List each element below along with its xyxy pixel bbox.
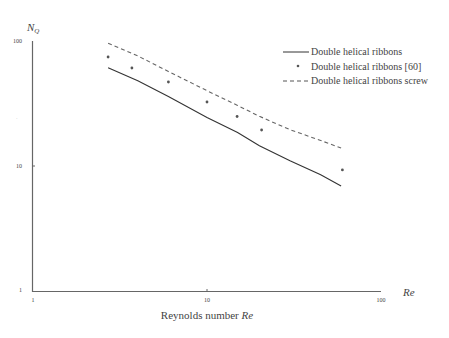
x-axis-end-label: Re bbox=[402, 286, 415, 298]
legend: Double helical ribbons Double helical ri… bbox=[283, 46, 429, 86]
legend-label-points: Double helical ribbons [60] bbox=[311, 61, 421, 72]
series-double-helical-ribbons-60 bbox=[107, 56, 344, 172]
x-axis-title: Reynolds number Re bbox=[161, 309, 253, 321]
legend-label-solid: Double helical ribbons bbox=[311, 46, 402, 57]
y-tick-label-100: 100 bbox=[13, 38, 22, 44]
data-point bbox=[260, 129, 263, 132]
legend-point-icon bbox=[297, 65, 300, 68]
data-point bbox=[167, 81, 170, 84]
series-line bbox=[108, 68, 341, 186]
y-tick-label-10: 10 bbox=[16, 163, 22, 169]
data-point bbox=[107, 56, 110, 59]
data-point bbox=[206, 101, 209, 104]
chart: 100 10 1 1 10 100 NQ Re Reynolds number … bbox=[0, 0, 449, 338]
y-axis-title: NQ bbox=[26, 21, 39, 35]
x-tick-label-100: 100 bbox=[377, 297, 386, 303]
y-tick-label-1: 1 bbox=[19, 287, 22, 293]
x-tick-label-1: 1 bbox=[32, 297, 35, 303]
x-tick-label-10: 10 bbox=[204, 297, 210, 303]
data-point bbox=[236, 115, 239, 118]
data-point bbox=[341, 169, 344, 172]
series-double-helical-ribbons bbox=[108, 68, 341, 186]
series-line bbox=[108, 43, 341, 148]
legend-label-dashed: Double helical ribbons screw bbox=[311, 75, 429, 86]
stray-mark: · bbox=[16, 116, 18, 121]
series-double-helical-ribbons-screw bbox=[108, 43, 341, 148]
data-point bbox=[131, 67, 134, 70]
